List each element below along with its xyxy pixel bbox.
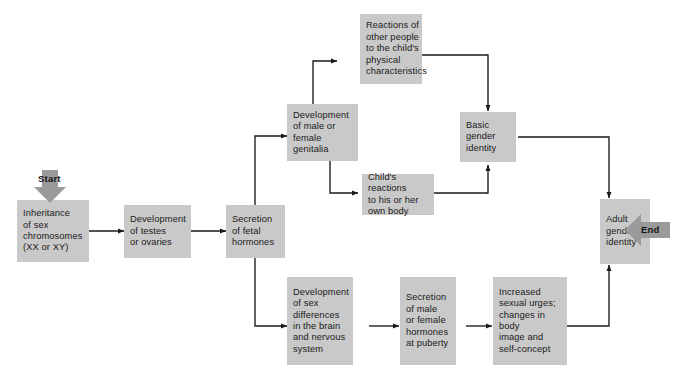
node-development-of-testes-or-ovaries-label: Development of testes or ovaries xyxy=(130,214,186,248)
edge-genitalia-to-childs-reactions xyxy=(330,161,358,193)
node-secretion-of-fetal-hormones[interactable]: Secretion of fetal hormones xyxy=(226,205,285,258)
node-reactions-of-other-people-label: Reactions of other people to the child's… xyxy=(366,20,427,77)
node-inheritance[interactable]: Inheritance of sex chromosomes (XX or XY… xyxy=(17,200,89,262)
edge-reactions-others-to-basic-gender xyxy=(422,55,488,111)
node-childs-reactions-to-own-body[interactable]: Child's reactions to his or her own body xyxy=(362,174,434,215)
node-secretion-of-hormones-at-puberty-label: Secretion of male or female hormones at … xyxy=(406,292,448,349)
end-label: End xyxy=(641,224,660,235)
node-childs-reactions-to-own-body-label: Child's reactions to his or her own body xyxy=(368,172,428,218)
node-development-of-testes-or-ovaries[interactable]: Development of testes or ovaries xyxy=(124,205,191,258)
start-label: Start xyxy=(38,173,61,184)
node-development-of-sex-differences-label: Development of sex differences in the br… xyxy=(293,287,349,355)
node-development-of-sex-differences[interactable]: Development of sex differences in the br… xyxy=(287,277,353,365)
node-secretion-of-fetal-hormones-label: Secretion of fetal hormones xyxy=(232,214,274,248)
edge-sexual-urges-to-adult-gender xyxy=(566,265,609,326)
node-increased-sexual-urges[interactable]: Increased sexual urges; changes in body … xyxy=(493,277,567,365)
edge-fetal-to-genitalia xyxy=(255,136,287,205)
node-inheritance-label: Inheritance of sex chromosomes (XX or XY… xyxy=(23,208,82,254)
node-secretion-of-hormones-at-puberty[interactable]: Secretion of male or female hormones at … xyxy=(400,277,456,365)
node-development-of-genitalia[interactable]: Development of male or female genitalia xyxy=(287,104,358,161)
flowchart-canvas: Start End Inheritance of sex chromosomes… xyxy=(0,0,677,379)
edge-basic-gender-to-adult-gender xyxy=(518,137,609,198)
node-reactions-of-other-people[interactable]: Reactions of other people to the child's… xyxy=(360,14,422,84)
edge-childs-reactions-to-basic-gender xyxy=(434,165,488,193)
edge-fetal-to-brain-differences xyxy=(255,258,287,326)
node-development-of-genitalia-label: Development of male or female genitalia xyxy=(293,110,349,156)
node-basic-gender-identity-label: Basic gender identity xyxy=(466,120,496,154)
node-increased-sexual-urges-label: Increased sexual urges; changes in body … xyxy=(499,287,561,355)
node-basic-gender-identity[interactable]: Basic gender identity xyxy=(460,112,516,162)
